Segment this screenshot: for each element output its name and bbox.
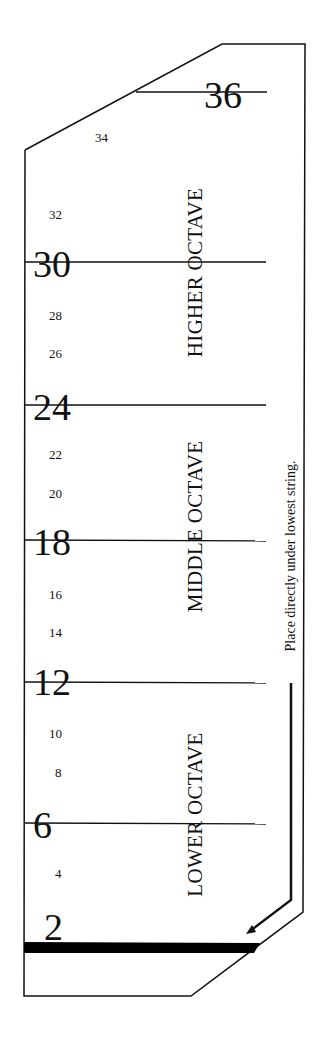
mark-26: 26	[49, 347, 62, 360]
mark-12: 12	[33, 663, 71, 701]
mark-30: 30	[33, 245, 71, 283]
mark-10: 10	[49, 727, 62, 740]
mark-6: 6	[33, 806, 52, 844]
mark-20: 20	[49, 487, 62, 500]
mark-14: 14	[49, 626, 62, 639]
mark-32: 32	[49, 208, 62, 221]
mark-18: 18	[33, 523, 71, 561]
mark-16: 16	[49, 588, 62, 601]
mark-2: 2	[44, 908, 63, 946]
lower-octave-label: LOWER OCTAVE	[185, 715, 206, 915]
mark-4: 4	[55, 867, 62, 880]
mark-28: 28	[49, 309, 62, 322]
mark-34: 34	[95, 131, 108, 144]
placement-instruction: Place directly under lowest string.	[284, 431, 298, 681]
higher-octave-label: HIGHER OCTAVE	[185, 173, 206, 373]
fret-line-6	[25, 823, 266, 824]
mark-8: 8	[55, 766, 62, 779]
mark-22: 22	[49, 448, 62, 461]
arrow-line	[250, 683, 291, 931]
template-outline	[0, 0, 322, 1039]
mark-36: 36	[204, 76, 242, 114]
mark-24: 24	[33, 388, 71, 426]
middle-octave-label: MIDDLE OCTAVE	[185, 427, 206, 627]
